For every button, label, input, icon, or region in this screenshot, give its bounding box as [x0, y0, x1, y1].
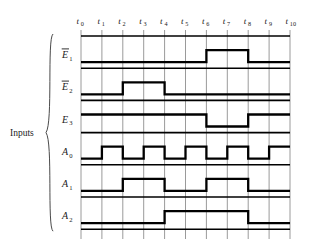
signal-base: A: [61, 146, 69, 157]
tick-subscript: 4: [164, 20, 167, 27]
tick-base: t: [223, 16, 226, 26]
tick-subscript: 8: [248, 20, 251, 27]
time-tick-label-t0: t0: [77, 16, 84, 27]
tick-subscript: 7: [227, 20, 230, 27]
time-tick-label-t2: t2: [118, 16, 125, 27]
time-tick-label-t5: t5: [181, 16, 188, 27]
tick-base: t: [97, 16, 100, 26]
tick-subscript: 6: [206, 20, 209, 27]
signal-subscript: 0: [69, 152, 73, 159]
time-tick-label-t4: t4: [160, 16, 167, 27]
signal-label-A2: A2: [61, 210, 72, 223]
tick-subscript: 0: [81, 20, 84, 27]
tick-base: t: [181, 16, 184, 26]
time-tick-label-t8: t8: [244, 16, 251, 27]
tick-base: t: [265, 16, 268, 26]
tick-subscript: 3: [144, 20, 147, 27]
tick-subscript: 1: [102, 20, 105, 27]
tick-base: t: [77, 16, 80, 26]
signal-label-A0: A0: [61, 146, 73, 159]
signal-base: E: [61, 49, 68, 60]
tick-subscript: 5: [185, 20, 188, 27]
signal-base: E: [61, 81, 68, 92]
signal-label-A1: A1: [61, 178, 72, 191]
time-tick-label-t10: t10: [286, 16, 296, 27]
tick-subscript: 9: [269, 20, 272, 27]
signal-base: A: [61, 178, 69, 189]
time-tick-label-t7: t7: [223, 16, 230, 27]
inputs-group-label: Inputs: [10, 128, 34, 138]
tick-base: t: [244, 16, 247, 26]
signal-base: E: [61, 114, 68, 125]
time-tick-label-t6: t6: [202, 16, 209, 27]
signal-subscript: 1: [69, 55, 72, 62]
tick-base: t: [118, 16, 121, 26]
signal-label-E2bar: E2: [61, 81, 72, 94]
timing-diagram-figure: t0t1t2t3t4t5t6t7t8t9t10E1E2E3A0A1A2Input…: [0, 0, 314, 246]
time-tick-label-t3: t3: [139, 16, 146, 27]
tick-subscript: 2: [123, 20, 126, 27]
tick-base: t: [139, 16, 142, 26]
tick-subscript: 10: [290, 20, 296, 27]
signal-subscript: 2: [69, 87, 72, 94]
time-tick-label-t1: t1: [97, 16, 104, 27]
signal-base: A: [61, 210, 69, 221]
waveform-A0: [81, 147, 290, 159]
signal-subscript: 1: [69, 184, 72, 191]
signal-label-E3: E3: [61, 114, 73, 127]
time-tick-label-t9: t9: [265, 16, 272, 27]
tick-base: t: [286, 16, 289, 26]
timing-diagram-canvas: t0t1t2t3t4t5t6t7t8t9t10E1E2E3A0A1A2Input…: [0, 0, 314, 246]
tick-base: t: [160, 16, 163, 26]
inputs-brace: [46, 34, 53, 231]
signal-subscript: 2: [69, 216, 72, 223]
signal-label-E1bar: E1: [61, 49, 72, 62]
tick-base: t: [202, 16, 205, 26]
signal-subscript: 3: [69, 119, 73, 126]
